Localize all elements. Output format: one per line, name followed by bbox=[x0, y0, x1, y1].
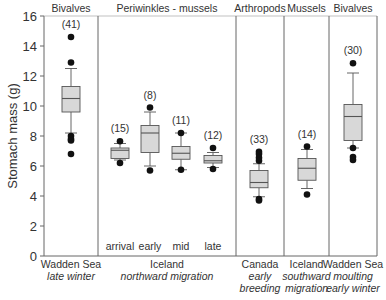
sample-size-label: (8) bbox=[144, 89, 157, 101]
outlier-point bbox=[68, 151, 75, 158]
sample-size-label: (33) bbox=[250, 133, 269, 145]
y-tick-label: 10 bbox=[23, 99, 37, 114]
season-label: northward migration bbox=[121, 270, 214, 282]
stage-label: arrival bbox=[106, 240, 135, 252]
iqr-box bbox=[298, 159, 316, 181]
panel-headers: BivalvesPeriwinkles - musselsArthropodsM… bbox=[51, 2, 372, 14]
panel-header: Bivalves bbox=[333, 2, 372, 14]
stage-label: early bbox=[139, 240, 163, 252]
season-label: late winter bbox=[47, 270, 95, 282]
y-tick-label: 16 bbox=[23, 9, 37, 24]
iqr-box bbox=[250, 171, 268, 188]
outlier-point bbox=[68, 137, 75, 144]
outlier-point bbox=[304, 143, 311, 150]
season-label: migration bbox=[285, 282, 328, 294]
outlier-point bbox=[117, 160, 124, 167]
box-group: (12) bbox=[204, 129, 223, 172]
box-group: (15) bbox=[111, 122, 130, 166]
location-label: Iceland bbox=[150, 258, 184, 270]
season-label: breeding bbox=[240, 282, 281, 294]
outlier-point bbox=[256, 197, 263, 204]
season-label: moulting bbox=[333, 270, 373, 282]
box-group: (11) bbox=[172, 114, 190, 173]
sample-size-label: (14) bbox=[298, 128, 317, 140]
sample-size-label: (12) bbox=[204, 129, 223, 141]
outlier-point bbox=[210, 166, 217, 173]
outlier-point bbox=[304, 191, 311, 198]
sample-size-label: (30) bbox=[344, 44, 363, 56]
outlier-point bbox=[256, 157, 263, 164]
y-axis: 0246810121416 bbox=[23, 9, 44, 264]
x-axis-labels: Wadden Sealate winterIcelandnorthward mi… bbox=[41, 240, 383, 294]
location-label: Iceland bbox=[290, 258, 324, 270]
outlier-point bbox=[350, 157, 357, 164]
outlier-point bbox=[178, 130, 185, 137]
location-label: Wadden Sea bbox=[323, 258, 383, 270]
box-group: (8) bbox=[141, 89, 159, 174]
location-label: Wadden Sea bbox=[41, 258, 101, 270]
season-label: early winter bbox=[326, 282, 380, 294]
iqr-box bbox=[344, 105, 362, 141]
panel-header: Periwinkles - mussels bbox=[117, 2, 218, 14]
iqr-box bbox=[141, 126, 159, 153]
panel-header: Arthropods bbox=[234, 2, 285, 14]
outlier-point bbox=[68, 34, 75, 41]
location-label: Canada bbox=[242, 258, 279, 270]
y-tick-label: 12 bbox=[23, 69, 37, 84]
box-series: (41)(15)(8)(11)(12)(33)(14)(30) bbox=[62, 18, 363, 204]
outlier-point bbox=[147, 167, 154, 174]
iqr-box bbox=[62, 87, 80, 113]
outlier-point bbox=[178, 166, 185, 173]
outlier-point bbox=[350, 145, 357, 152]
box-group: (30) bbox=[344, 44, 363, 163]
y-tick-label: 8 bbox=[30, 129, 37, 144]
panel-header: Mussels bbox=[287, 2, 326, 14]
outlier-point bbox=[147, 104, 154, 111]
sample-size-label: (11) bbox=[172, 114, 190, 126]
iqr-box bbox=[111, 148, 129, 159]
box-group: (14) bbox=[298, 128, 317, 198]
outlier-point bbox=[210, 145, 217, 152]
box-plot-chart: 0246810121416 Stomach mass (g) BivalvesP… bbox=[0, 0, 386, 300]
sample-size-label: (15) bbox=[111, 122, 130, 134]
stage-label: mid bbox=[173, 240, 190, 252]
sample-size-label: (41) bbox=[62, 18, 81, 30]
box-group: (33) bbox=[250, 133, 269, 204]
y-tick-label: 2 bbox=[30, 219, 37, 234]
stage-label: late bbox=[205, 240, 222, 252]
y-axis-label: Stomach mass (g) bbox=[5, 83, 20, 188]
y-tick-label: 4 bbox=[30, 189, 37, 204]
y-tick-label: 14 bbox=[23, 39, 37, 54]
y-tick-label: 0 bbox=[30, 249, 37, 264]
box-group: (41) bbox=[62, 18, 81, 157]
panel-header: Bivalves bbox=[51, 2, 90, 14]
outlier-point bbox=[68, 59, 75, 66]
season-label: early bbox=[249, 270, 273, 282]
outlier-point bbox=[350, 60, 357, 67]
season-label: southward bbox=[282, 270, 332, 282]
iqr-box bbox=[204, 156, 222, 164]
y-tick-label: 6 bbox=[30, 159, 37, 174]
outlier-point bbox=[117, 138, 124, 145]
